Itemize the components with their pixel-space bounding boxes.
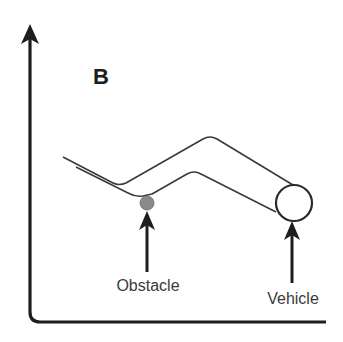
vehicle-label: Vehicle (267, 290, 319, 307)
panel-letter: B (93, 64, 109, 89)
obstacle-arrow (139, 211, 155, 272)
obstacle-label: Obstacle (116, 277, 179, 294)
road-lower-line (76, 167, 276, 212)
road-path (63, 137, 293, 212)
vehicle-arrow (284, 221, 300, 283)
diagram-canvas: B Obstacle Vehicle (0, 0, 343, 342)
vehicle-circle (276, 185, 312, 221)
obstacle-dot (140, 196, 154, 210)
